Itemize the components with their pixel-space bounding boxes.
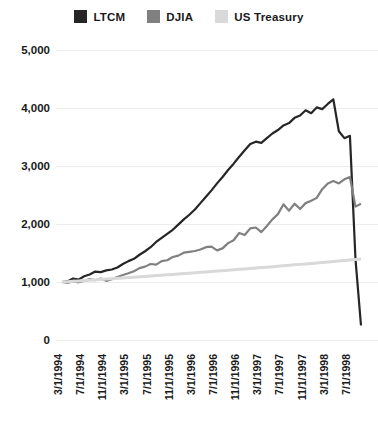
xtick-label: 7/1/1998 (340, 354, 352, 395)
xtick-label: 11/1/1994 (96, 354, 108, 400)
xtick-label: 11/1/1996 (229, 354, 241, 400)
ytick-labels-group: 01,0002,0003,0004,0005,000 (21, 44, 50, 346)
xtick-label: 7/1/1996 (207, 354, 219, 395)
xtick-label: 3/1/1996 (185, 354, 197, 395)
ytick-label: 0 (44, 334, 50, 346)
line-chart-svg: 01,0002,0003,0004,0005,000 3/1/19947/1/1… (0, 0, 378, 422)
ytick-label: 5,000 (21, 44, 50, 56)
ytick-label: 4,000 (21, 102, 50, 114)
xtick-labels-group: 3/1/19947/1/199411/1/19943/1/19957/1/199… (52, 354, 352, 400)
xtick-label: 11/1/1995 (163, 354, 175, 400)
xtick-label: 3/1/1995 (118, 354, 130, 395)
series-group (62, 99, 361, 325)
plot-area-wrapper: 01,0002,0003,0004,0005,000 3/1/19947/1/1… (0, 0, 378, 422)
xtick-label: 7/1/1994 (74, 354, 86, 395)
xtick-label: 7/1/1995 (141, 354, 153, 395)
xtick-label: 3/1/1998 (318, 354, 330, 395)
series-line-djia (62, 177, 361, 283)
xtick-label: 7/1/1997 (273, 354, 285, 395)
ytick-label: 3,000 (21, 160, 50, 172)
chart-container: LTCM DJIA US Treasury 01,0002,0003,0004,… (0, 0, 378, 422)
ytick-label: 1,000 (21, 276, 50, 288)
ytick-label: 2,000 (21, 218, 50, 230)
xtick-label: 11/1/1997 (296, 354, 308, 400)
xtick-label: 3/1/1994 (52, 354, 64, 395)
xtick-label: 3/1/1997 (251, 354, 263, 395)
series-line-ltcm (62, 99, 361, 325)
gridlines-group (56, 50, 378, 340)
